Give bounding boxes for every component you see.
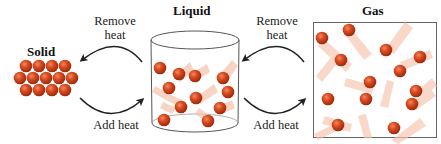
- add-heat-label-left: Add heat: [86, 118, 146, 132]
- add-heat-arrow-icon: [80, 98, 142, 114]
- gas-title: Gas: [362, 3, 384, 19]
- solid-particles: [14, 60, 79, 97]
- add-heat-label-right: Add heat: [246, 118, 306, 132]
- remove-heat-line2-right: heat: [252, 28, 302, 42]
- remove-heat-line1-right: Remove: [252, 14, 302, 28]
- arrows-solid-liquid: [80, 46, 142, 113]
- liquid-title: Liquid: [173, 3, 211, 19]
- gas-particles: [316, 24, 427, 135]
- states-of-matter-diagram: [0, 0, 441, 144]
- remove-heat-line1: Remove: [90, 14, 140, 28]
- add-heat-arrow-icon-2: [244, 98, 304, 114]
- remove-heat-arrow-icon-2: [244, 46, 304, 62]
- remove-heat-line2: heat: [90, 28, 140, 42]
- solid-title: Solid: [27, 44, 55, 60]
- remove-heat-label-right: Remove heat: [252, 14, 302, 42]
- arrows-liquid-gas: [244, 46, 304, 113]
- remove-heat-arrow-icon: [82, 46, 142, 62]
- remove-heat-label-left: Remove heat: [90, 14, 140, 42]
